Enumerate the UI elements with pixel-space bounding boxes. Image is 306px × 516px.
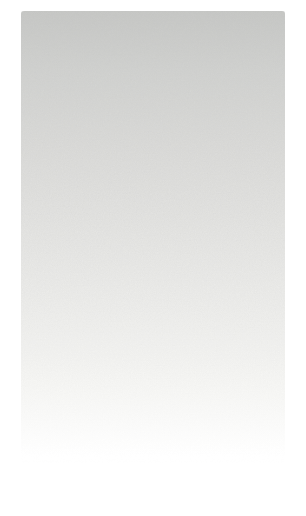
scan-canvas	[0, 0, 306, 516]
blank-scanned-page	[21, 11, 285, 516]
film-grain-overlay	[21, 11, 285, 516]
